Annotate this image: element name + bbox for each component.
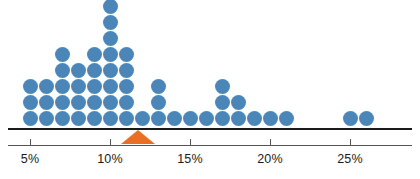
- data-dot: [103, 47, 118, 62]
- data-dot: [55, 111, 70, 126]
- data-dot: [103, 63, 118, 78]
- data-dot: [87, 79, 102, 94]
- x-axis-tick: [30, 139, 31, 146]
- x-axis-tick-label: 25%: [337, 152, 363, 166]
- data-dot: [167, 111, 182, 126]
- x-axis-tick: [350, 139, 351, 146]
- data-dot: [215, 95, 230, 110]
- data-dot: [23, 95, 38, 110]
- data-dot: [55, 95, 70, 110]
- data-dot: [343, 111, 358, 126]
- data-dot: [103, 0, 118, 14]
- data-dot: [359, 111, 374, 126]
- data-dot: [39, 95, 54, 110]
- data-dot: [103, 95, 118, 110]
- data-dot: [215, 111, 230, 126]
- data-dot: [23, 79, 38, 94]
- data-dot: [151, 79, 166, 94]
- data-dot: [119, 47, 134, 62]
- x-axis-tick-label: 20%: [257, 152, 283, 166]
- data-dot: [199, 111, 214, 126]
- data-dot: [215, 79, 230, 94]
- data-dot: [151, 111, 166, 126]
- data-dot: [279, 111, 294, 126]
- data-dot: [39, 79, 54, 94]
- data-dot: [103, 111, 118, 126]
- data-dot: [263, 111, 278, 126]
- x-axis-tick: [110, 139, 111, 146]
- data-dot: [55, 79, 70, 94]
- data-dot: [119, 79, 134, 94]
- dot-plot-chart: 5%10%15%20%25%: [0, 0, 420, 179]
- data-dot: [103, 31, 118, 46]
- data-dot: [71, 63, 86, 78]
- data-dot: [135, 111, 150, 126]
- data-dot: [183, 111, 198, 126]
- data-dot: [39, 111, 54, 126]
- data-dot: [87, 111, 102, 126]
- data-dot: [103, 79, 118, 94]
- baseline-rule: [8, 128, 412, 130]
- data-dot: [151, 95, 166, 110]
- data-dot: [119, 63, 134, 78]
- data-dot: [119, 111, 134, 126]
- data-dot: [55, 63, 70, 78]
- data-dot: [71, 95, 86, 110]
- data-dot: [231, 95, 246, 110]
- data-dot: [23, 111, 38, 126]
- x-axis-tick: [190, 139, 191, 146]
- mean-marker-triangle-icon: [121, 130, 155, 144]
- data-dot: [103, 15, 118, 30]
- data-dot: [87, 47, 102, 62]
- data-dot: [55, 47, 70, 62]
- x-axis-tick-label: 10%: [97, 152, 123, 166]
- x-axis-line: [8, 145, 412, 146]
- data-dot: [87, 95, 102, 110]
- data-dot: [247, 111, 262, 126]
- data-dot: [119, 95, 134, 110]
- x-axis-tick: [270, 139, 271, 146]
- x-axis-tick-label: 15%: [177, 152, 203, 166]
- x-axis-tick-label: 5%: [21, 152, 39, 166]
- data-dot: [71, 111, 86, 126]
- data-dot: [231, 111, 246, 126]
- data-dot: [71, 79, 86, 94]
- data-dot: [87, 63, 102, 78]
